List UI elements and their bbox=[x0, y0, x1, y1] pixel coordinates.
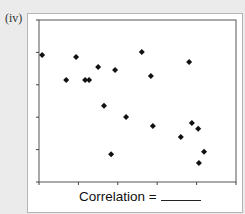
plot-frame bbox=[39, 20, 236, 182]
data-point-diamond bbox=[186, 59, 192, 65]
data-point-diamond bbox=[139, 49, 145, 55]
data-point-diamond bbox=[150, 123, 156, 129]
data-point-diamond bbox=[189, 120, 195, 126]
data-point-diamond bbox=[95, 64, 101, 70]
data-point-diamond bbox=[195, 126, 201, 132]
data-point-diamond bbox=[39, 52, 45, 58]
data-point-diamond bbox=[86, 77, 92, 83]
scatter-plot bbox=[0, 0, 245, 214]
data-point-diamond bbox=[112, 67, 118, 73]
data-points bbox=[39, 49, 207, 166]
correlation-prompt: Correlation = bbox=[79, 188, 201, 204]
data-point-diamond bbox=[196, 160, 202, 166]
data-point-diamond bbox=[108, 151, 114, 157]
data-point-diamond bbox=[148, 73, 154, 79]
correlation-label: Correlation = bbox=[79, 189, 157, 204]
data-point-diamond bbox=[63, 77, 69, 83]
data-point-diamond bbox=[123, 114, 129, 120]
page: (iv) Correlation = bbox=[0, 0, 245, 214]
correlation-blank bbox=[161, 188, 201, 201]
data-point-diamond bbox=[178, 134, 184, 140]
data-point-diamond bbox=[201, 149, 207, 155]
data-point-diamond bbox=[73, 54, 79, 60]
data-point-diamond bbox=[101, 103, 107, 109]
